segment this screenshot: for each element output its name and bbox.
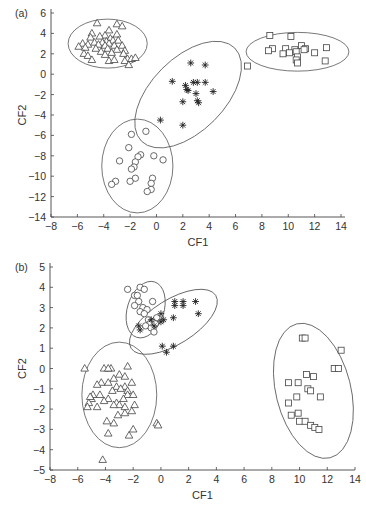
square-marker [308,388,314,394]
y-tick-label: 6 [40,7,46,19]
asterisk-marker [202,79,209,86]
cluster-ellipse [116,22,261,167]
circle-marker [134,292,140,298]
circle-marker [143,128,149,134]
circle-marker [148,180,154,186]
asterisk-marker [179,98,186,105]
y-tick-label: 1 [39,342,45,354]
square-marker [295,410,301,416]
circle-marker [160,157,166,163]
triangle-marker [105,26,113,33]
square-marker [295,380,301,386]
circle-marker [151,153,157,159]
x-tick-label: −6 [72,473,84,485]
asterisk-marker [180,302,187,309]
figure: 6420−2−4−6−8−10−12−14−8−6−4−202468101214… [0,0,366,509]
y-tick-label: −6 [34,129,46,141]
series-stars [157,60,217,129]
asterisk-marker [151,322,158,329]
x-tick-label: 4 [213,473,219,485]
triangle-marker [121,409,129,416]
x-tick-label: 6 [233,220,239,232]
square-marker [316,426,322,432]
asterisk-marker [158,310,165,317]
triangle-marker [114,411,122,418]
y-tick-label: 4 [39,281,45,293]
axes-frame [50,263,355,470]
asterisk-marker [193,90,200,97]
y-tick-label: −4 [33,444,45,456]
y-tick-label: −2 [34,89,46,101]
triangle-marker [113,20,121,27]
square-marker [244,63,250,69]
scatter-chart-b: 543210−1−2−3−4−5−8−6−4−202468101214CF1CF… [0,250,366,509]
asterisk-marker [202,62,209,69]
triangle-marker [110,56,118,63]
square-marker [287,50,293,56]
x-tick-label: 8 [259,220,265,232]
x-tick-label: 2 [180,220,186,232]
triangle-marker [124,362,132,369]
triangle-marker [104,429,112,436]
square-marker [288,33,294,39]
asterisk-marker [170,343,177,350]
panel-label: (a) [15,7,28,19]
triangle-marker [129,425,137,432]
x-tick-label: −8 [44,473,56,485]
x-tick-label: 0 [154,220,160,232]
triangle-marker [96,391,104,398]
asterisk-marker [195,310,202,317]
asterisk-marker [148,316,155,323]
square-marker [285,380,291,386]
triangle-marker [110,419,118,426]
asterisk-marker [159,343,166,350]
square-marker [317,394,323,400]
triangle-marker [128,379,136,386]
square-marker [285,400,291,406]
asterisk-marker [185,87,192,94]
asterisk-marker [210,88,217,95]
circle-marker [149,298,155,304]
x-tick-label: −4 [98,220,110,232]
triangle-marker [99,456,107,463]
series-triangles [75,19,139,67]
scatter-chart-a: 6420−2−4−6−8−10−12−14−8−6−4−202468101214… [0,0,366,250]
square-marker [295,60,301,66]
triangle-marker [103,417,111,424]
y-tick-label: −12 [28,191,46,203]
y-tick-label: −1 [33,383,45,395]
asterisk-marker [160,316,167,323]
circle-marker [126,144,132,150]
x-tick-label: −2 [127,473,139,485]
asterisk-marker [187,60,194,67]
x-tick-label: 10 [294,473,306,485]
x-tick-label: −6 [71,220,83,232]
x-tick-label: −8 [45,220,57,232]
asterisk-marker [171,302,178,309]
square-marker [335,366,341,372]
x-tick-label: −2 [124,220,136,232]
series-squares [285,335,344,432]
square-marker [312,50,318,56]
square-marker [310,374,316,380]
x-axis-label: CF1 [192,489,213,501]
x-tick-label: 0 [158,473,164,485]
square-marker [303,372,309,378]
asterisk-marker [157,117,164,124]
y-axis-label: CF2 [16,105,28,126]
triangle-marker [116,371,124,378]
circle-marker [151,329,157,335]
circle-marker [144,188,150,194]
y-tick-label: 4 [40,27,46,39]
panel-label: (b) [15,261,28,273]
asterisk-marker [163,349,170,356]
circle-marker [127,178,133,184]
series-circles [108,128,166,195]
asterisk-marker [137,327,144,334]
triangle-marker [113,30,121,37]
x-tick-label: 8 [269,473,275,485]
square-marker [322,58,328,64]
triangle-marker [125,431,133,438]
y-tick-label: −8 [34,150,46,162]
circle-marker [124,286,130,292]
